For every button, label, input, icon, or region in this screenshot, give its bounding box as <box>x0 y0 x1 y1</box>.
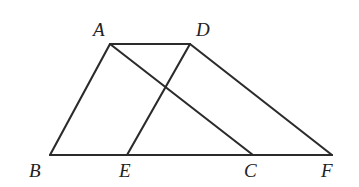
segment-BA <box>50 44 110 155</box>
segment-group <box>50 44 332 155</box>
vertex-label-A: A <box>93 20 105 39</box>
segment-DF <box>190 44 332 155</box>
vertex-label-D: D <box>196 20 210 39</box>
vertex-label-C: C <box>244 161 257 180</box>
vertex-label-E: E <box>119 161 131 180</box>
vertex-label-B: B <box>29 161 41 180</box>
vertex-label-F: F <box>321 161 333 180</box>
geometry-figure: A D B E C F <box>0 0 359 187</box>
geometry-canvas <box>0 0 359 187</box>
